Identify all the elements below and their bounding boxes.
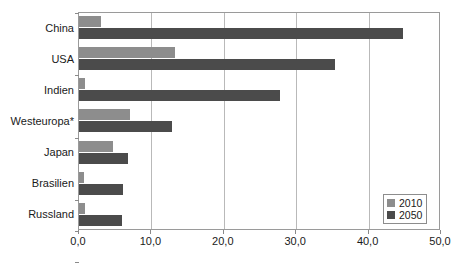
legend-item-2050: 2050 [387, 209, 422, 221]
bar-westeuropa-2010 [79, 109, 130, 120]
x-axis-label-2: 20,0 [212, 235, 233, 247]
bar-russland-2050 [79, 215, 122, 226]
x-axis-tick [223, 230, 224, 234]
category-label-indien: Indien [0, 84, 74, 96]
bar-china-2050 [79, 28, 403, 39]
legend-label: 2050 [399, 210, 422, 221]
legend-swatch-icon [387, 211, 395, 219]
bar-group [79, 106, 439, 137]
bar-russland-2010 [79, 203, 85, 214]
bar-usa-2010 [79, 47, 175, 58]
x-axis-tick [150, 230, 151, 234]
bar-japan-2050 [79, 153, 128, 164]
bar-usa-2050 [79, 59, 335, 70]
bar-group [79, 44, 439, 75]
bar-chart: ChinaUSAIndienWesteuropa*JapanBrasilienR… [0, 0, 455, 265]
bar-indien-2010 [79, 78, 85, 89]
legend-item-2010: 2010 [387, 197, 422, 209]
y-axis-tick [75, 13, 79, 14]
bar-japan-2010 [79, 141, 113, 152]
bar-group [79, 75, 439, 106]
x-axis-tick [295, 230, 296, 234]
category-label-china: China [0, 22, 74, 34]
x-axis-tick [368, 230, 369, 234]
legend-swatch-icon [387, 199, 395, 207]
bar-group [79, 138, 439, 169]
category-label-usa: USA [0, 53, 74, 65]
y-axis-tick [75, 262, 79, 263]
bar-indien-2050 [79, 90, 280, 101]
x-axis-tick [78, 230, 79, 234]
category-label-brasilien: Brasilien [0, 177, 74, 189]
x-axis-label-5: 50,0 [429, 235, 450, 247]
legend-label: 2010 [399, 198, 422, 209]
y-axis-category-labels: ChinaUSAIndienWesteuropa*JapanBrasilienR… [0, 12, 74, 230]
x-axis-label-1: 10,0 [140, 235, 161, 247]
x-axis-label-4: 40,0 [357, 235, 378, 247]
bar-china-2010 [79, 16, 101, 27]
category-label-japan: Japan [0, 146, 74, 158]
x-axis-tick [440, 230, 441, 234]
category-label-russland: Russland [0, 208, 74, 220]
category-label-westeuropa: Westeuropa* [0, 115, 74, 127]
bar-brasilien-2010 [79, 172, 84, 183]
x-axis-label-3: 30,0 [284, 235, 305, 247]
bar-brasilien-2050 [79, 184, 123, 195]
x-axis-tick-labels: 0,010,020,030,040,050,0 [0, 233, 455, 251]
bar-group [79, 13, 439, 44]
chart-legend: 20102050 [383, 194, 427, 224]
bar-westeuropa-2050 [79, 121, 172, 132]
x-axis-label-0: 0,0 [70, 235, 85, 247]
